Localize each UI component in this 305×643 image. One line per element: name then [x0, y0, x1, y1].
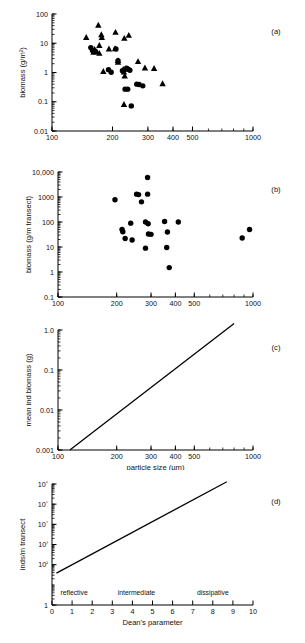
x-tick-label: 10 — [249, 607, 257, 616]
y-tick-label: 10 — [46, 243, 54, 252]
zone-label: dissipative — [197, 589, 229, 597]
y-tick-label: 1 — [44, 68, 48, 77]
y-axis-label-a: biomass (g/m²) — [18, 47, 27, 98]
data-point-circle — [145, 221, 150, 226]
chart-panel-c: 10020030040050010000.0010.010.11.0mean i… — [0, 320, 305, 470]
data-point-triangle — [121, 101, 127, 107]
data-point-circle — [140, 83, 145, 88]
y-tick-label: 0.1 — [38, 97, 48, 106]
data-point-triangle — [126, 32, 132, 38]
data-point-circle — [129, 237, 134, 242]
data-point-circle — [162, 219, 167, 224]
panel-label-b: (b) — [271, 185, 281, 194]
data-point-circle — [122, 236, 127, 241]
chart-panel-b: 10020030040050010000.1110100100010,000bi… — [0, 163, 305, 315]
data-point-triangle — [142, 65, 148, 71]
data-point-circle — [120, 229, 125, 234]
x-axis-label-d: Dean's parameter — [122, 618, 183, 627]
x-tick-label: 8 — [211, 607, 215, 616]
data-point-triangle — [121, 35, 127, 41]
data-point-circle — [239, 235, 244, 240]
y-tick-label: 10³ — [38, 540, 48, 550]
x-axis-label-c: particle size (µm) — [127, 463, 185, 470]
x-tick-label: 1000 — [245, 452, 261, 461]
plot-area-a: 10020030040050010000.010.1110100biomass … — [0, 6, 305, 158]
y-tick-label: 1 — [50, 268, 54, 277]
x-tick-label: 3 — [110, 607, 114, 616]
x-tick-label: 200 — [111, 299, 123, 308]
chart-panel-d: 012345678910110²10³10⁴10⁵10⁶inds/m trans… — [0, 472, 305, 643]
x-tick-label: 5 — [151, 607, 155, 616]
x-tick-label: 300 — [142, 133, 154, 142]
y-tick-label: 1 — [44, 601, 48, 610]
chart-panel-a: 10020030040050010000.010.1110100biomass … — [0, 6, 305, 158]
data-point-circle — [129, 103, 134, 108]
y-tick-label: 0.001 — [36, 446, 54, 455]
data-point-circle — [165, 229, 170, 234]
y-axis-label-d: inds/m transect — [18, 518, 27, 570]
x-tick-label: 500 — [188, 452, 200, 461]
y-tick-label: 10² — [38, 560, 48, 570]
data-point-triangle — [100, 68, 106, 74]
y-axis-label-c: mean ind biomass (g) — [24, 353, 33, 426]
x-tick-label: 400 — [169, 452, 181, 461]
y-tick-label: 1000 — [38, 193, 54, 202]
data-point-circle — [143, 245, 148, 250]
data-point-circle — [167, 265, 172, 270]
data-line-c — [70, 324, 234, 450]
x-tick-label: 500 — [186, 133, 198, 142]
zone-label: intermediate — [118, 589, 156, 596]
x-tick-label: 1 — [70, 607, 74, 616]
y-tick-label: 1.0 — [44, 326, 54, 335]
figure-panel-group: 10020030040050010000.010.1110100biomass … — [0, 0, 305, 643]
data-point-circle — [145, 191, 150, 196]
data-point-triangle — [96, 42, 102, 48]
data-point-triangle — [83, 34, 89, 40]
data-point-circle — [108, 70, 113, 75]
x-tick-label: 9 — [231, 607, 235, 616]
data-point-circle — [115, 58, 120, 63]
data-point-circle — [90, 48, 95, 53]
data-point-circle — [127, 67, 132, 72]
y-tick-label: 100 — [36, 10, 48, 19]
data-point-circle — [125, 86, 130, 91]
data-point-circle — [136, 192, 141, 197]
data-point-triangle — [112, 29, 118, 35]
data-point-circle — [139, 199, 144, 204]
y-tick-label: 0.01 — [34, 127, 48, 136]
data-point-triangle — [106, 46, 112, 52]
plot-area-d: 012345678910110²10³10⁴10⁵10⁶inds/m trans… — [0, 472, 305, 643]
panel-label-a: (a) — [271, 27, 281, 36]
y-tick-label: 10⁴ — [38, 519, 48, 529]
data-point-circle — [164, 245, 169, 250]
x-tick-label: 6 — [171, 607, 175, 616]
data-point-triangle — [159, 80, 165, 86]
data-point-triangle — [135, 58, 141, 64]
x-tick-label: 2 — [90, 607, 94, 616]
x-tick-label: 500 — [188, 299, 200, 308]
panel-label-d: (d) — [271, 497, 281, 506]
data-point-circle — [112, 197, 117, 202]
y-tick-label: 0.1 — [44, 293, 54, 302]
data-point-circle — [128, 220, 133, 225]
y-axis-label-b: biomass (g/m transect) — [24, 195, 33, 273]
data-line-d — [56, 482, 226, 573]
y-tick-label: 10,000 — [32, 168, 54, 177]
x-tick-label: 200 — [107, 133, 119, 142]
data-point-circle — [145, 175, 150, 180]
data-point-triangle — [151, 65, 157, 71]
y-tick-label: 0.1 — [44, 366, 54, 375]
zone-label: reflective — [61, 589, 88, 596]
plot-area-c: 10020030040050010000.0010.010.11.0mean i… — [0, 320, 305, 470]
y-tick-label: 100 — [42, 218, 54, 227]
data-point-circle — [113, 46, 118, 51]
x-tick-label: 300 — [145, 299, 157, 308]
x-tick-label: 400 — [167, 133, 179, 142]
panel-label-c: (c) — [272, 343, 281, 352]
x-tick-label: 300 — [145, 452, 157, 461]
data-point-circle — [247, 227, 252, 232]
x-tick-label: 7 — [191, 607, 195, 616]
y-tick-label: 10⁶ — [38, 479, 48, 489]
x-tick-label: 4 — [130, 607, 134, 616]
y-tick-label: 10⁵ — [38, 499, 48, 509]
